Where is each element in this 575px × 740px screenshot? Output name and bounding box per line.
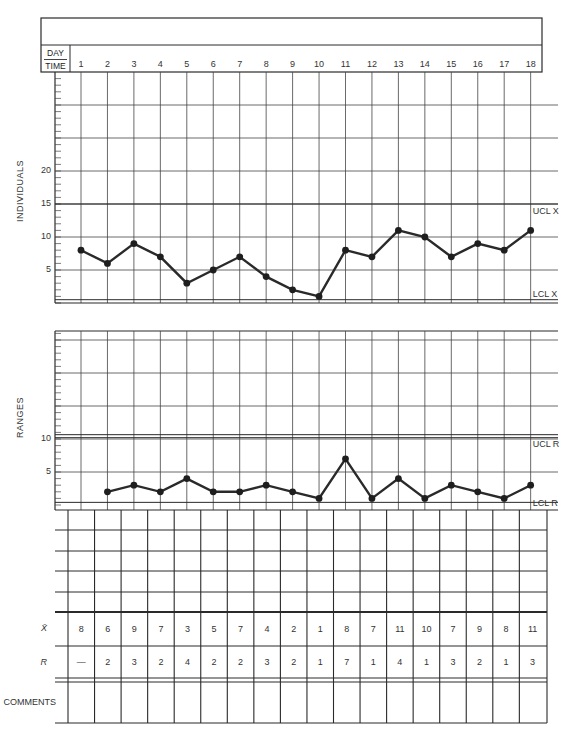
- day-number: 15: [446, 60, 456, 69]
- ranges-data-point: [183, 475, 190, 482]
- r-value-cell: 3: [530, 657, 535, 667]
- day-number: 14: [420, 60, 430, 69]
- xbar-value-cell: 5: [212, 624, 217, 634]
- individuals-data-point: [263, 273, 270, 280]
- xbar-value-cell: 10: [421, 624, 431, 634]
- ranges-data-point: [501, 495, 508, 502]
- xbar-value-cell: 6: [105, 624, 110, 634]
- r-row-label: R: [41, 658, 48, 667]
- ranges-data-point: [289, 488, 296, 495]
- xbar-value-cell: 3: [185, 624, 190, 634]
- r-value-cell: 1: [371, 657, 376, 667]
- xbar-value-cell: 11: [528, 624, 537, 634]
- individuals-data-point: [527, 227, 534, 234]
- time-label: TIME: [41, 61, 70, 71]
- day-number: 18: [526, 60, 536, 69]
- individuals-data-point: [78, 247, 85, 254]
- day-number: 6: [211, 60, 216, 69]
- day-label: DAY: [44, 48, 67, 60]
- xbar-value-cell: 2: [291, 624, 296, 634]
- day-number: 2: [105, 60, 110, 69]
- ranges-ucl-label: UCL R: [533, 440, 560, 449]
- xbar-value-cell: 9: [477, 624, 482, 634]
- ranges-data-point: [104, 488, 111, 495]
- ranges-data-point: [342, 455, 349, 462]
- r-value-cell: 2: [212, 657, 217, 667]
- ranges-data-point: [421, 495, 428, 502]
- individuals-data-point: [183, 280, 190, 287]
- individuals-data-point: [316, 293, 323, 300]
- individuals-tick-label: 10: [41, 232, 51, 241]
- individuals-tick-label: 5: [46, 265, 51, 274]
- r-value-cell: 2: [238, 657, 243, 667]
- day-number: 16: [473, 60, 483, 69]
- r-value-cell: 2: [158, 657, 163, 667]
- r-value-cell: 1: [318, 657, 323, 667]
- r-value-cell: 1: [424, 657, 429, 667]
- xbar-value-cell: 7: [158, 624, 163, 634]
- individuals-data-point: [395, 227, 402, 234]
- r-value-cell: 3: [450, 657, 455, 667]
- day-number: 3: [131, 60, 136, 69]
- day-number: 4: [158, 60, 163, 69]
- day-number: 5: [184, 60, 189, 69]
- ranges-data-point: [474, 488, 481, 495]
- comments-row-label: COMMENTS: [4, 698, 57, 707]
- day-number: 11: [341, 60, 350, 69]
- ranges-tick-label: 5: [46, 467, 51, 476]
- r-value-cell: 2: [477, 657, 482, 667]
- individuals-axis-label: INDIVIDUALS: [15, 160, 25, 222]
- individuals-data-point: [421, 234, 428, 241]
- individuals-lcl-label: LCL X: [533, 290, 558, 299]
- ranges-data-point: [157, 488, 164, 495]
- r-value-cell: 4: [397, 657, 402, 667]
- r-value-cell: —: [77, 657, 86, 667]
- r-value-cell: 3: [132, 657, 137, 667]
- individuals-ucl-label: UCL X: [533, 207, 559, 216]
- individuals-tick-label: 15: [41, 199, 51, 208]
- individuals-data-point: [342, 247, 349, 254]
- individuals-data-point: [448, 253, 455, 260]
- individuals-data-point: [157, 253, 164, 260]
- xbar-value-cell: 11: [395, 624, 404, 634]
- day-number: 12: [367, 60, 377, 69]
- day-number: 7: [237, 60, 242, 69]
- ranges-tick-label: 10: [41, 434, 51, 443]
- xbar-value-cell: 1: [318, 624, 323, 634]
- control-chart-form: [0, 0, 575, 740]
- day-number: 8: [264, 60, 269, 69]
- xbar-value-cell: 8: [504, 624, 509, 634]
- r-value-cell: 2: [291, 657, 296, 667]
- individuals-data-point: [236, 253, 243, 260]
- ranges-data-point: [369, 495, 376, 502]
- r-value-cell: 7: [344, 657, 349, 667]
- day-number: 10: [314, 60, 324, 69]
- individuals-data-point: [104, 260, 111, 267]
- day-number: 1: [78, 60, 83, 69]
- individuals-data-point: [131, 240, 138, 247]
- ranges-data-point: [448, 482, 455, 489]
- xbar-value-cell: 8: [79, 624, 84, 634]
- ranges-data-point: [263, 482, 270, 489]
- xbar-value-cell: 4: [265, 624, 270, 634]
- day-time-label: DAYTIME: [41, 45, 70, 72]
- individuals-data-line: [81, 230, 531, 296]
- r-value-cell: 3: [265, 657, 270, 667]
- r-value-cell: 1: [504, 657, 509, 667]
- individuals-data-point: [501, 247, 508, 254]
- ranges-axis-label: RANGES: [15, 397, 25, 438]
- individuals-data-point: [474, 240, 481, 247]
- xbar-value-cell: 8: [344, 624, 349, 634]
- individuals-tick-label: 20: [41, 166, 51, 175]
- day-number: 13: [393, 60, 403, 69]
- xbar-value-cell: 7: [450, 624, 455, 634]
- individuals-data-point: [289, 286, 296, 293]
- day-number: 17: [499, 60, 509, 69]
- r-value-cell: 4: [185, 657, 190, 667]
- ranges-data-point: [210, 488, 217, 495]
- xbar-value-cell: 9: [132, 624, 137, 634]
- ranges-lcl-label: LCL R: [533, 499, 558, 508]
- r-value-cell: 2: [105, 657, 110, 667]
- individuals-data-point: [210, 267, 217, 274]
- individuals-data-point: [369, 253, 376, 260]
